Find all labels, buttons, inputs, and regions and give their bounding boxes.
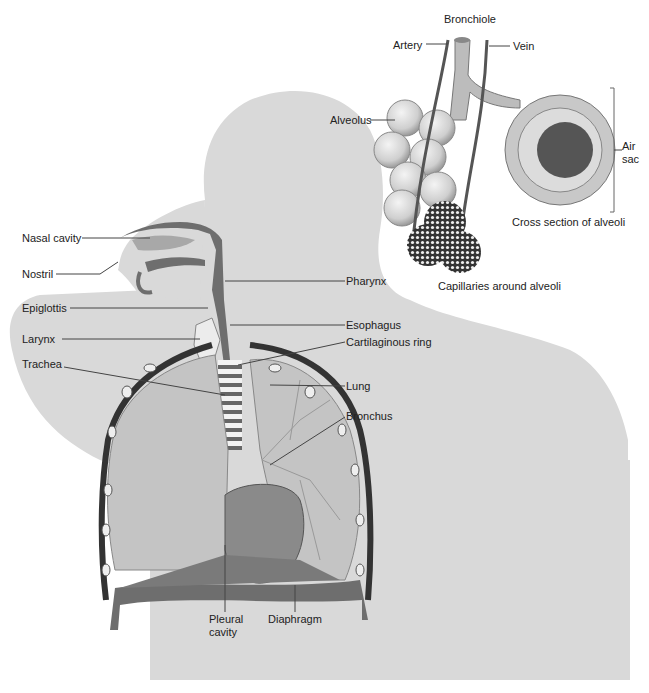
label-diaphragm: Diaphragm: [268, 613, 322, 626]
label-vein: Vein: [513, 40, 534, 53]
label-cross-section: Cross section of alveoli: [512, 216, 625, 229]
label-epiglottis: Epiglottis: [22, 302, 67, 315]
diagram-graphics: [0, 0, 649, 693]
label-artery: Artery: [393, 39, 422, 52]
label-air-sac-2: sac: [622, 153, 639, 166]
label-nostril: Nostril: [22, 268, 53, 281]
label-esophagus: Esophagus: [346, 319, 401, 332]
label-pleural-cavity-1: Pleural: [209, 613, 243, 626]
label-alveolus: Alveolus: [330, 114, 372, 127]
label-trachea: Trachea: [22, 358, 62, 371]
alveoli-inset: [374, 37, 615, 273]
label-bronchus: Bronchus: [346, 410, 392, 423]
respiratory-diagram: Nasal cavity Nostril Epiglottis Larynx T…: [0, 0, 649, 693]
label-pharynx: Pharynx: [346, 275, 386, 288]
label-larynx: Larynx: [22, 333, 55, 346]
label-lung: Lung: [346, 380, 370, 393]
label-cartilaginous-ring: Cartilaginous ring: [346, 336, 432, 349]
label-nasal-cavity: Nasal cavity: [22, 232, 81, 245]
label-air-sac-1: Air: [622, 140, 635, 153]
label-bronchiole: Bronchiole: [444, 13, 496, 26]
label-capillaries: Capillaries around alveoli: [438, 280, 561, 293]
label-pleural-cavity-2: cavity: [209, 626, 237, 639]
